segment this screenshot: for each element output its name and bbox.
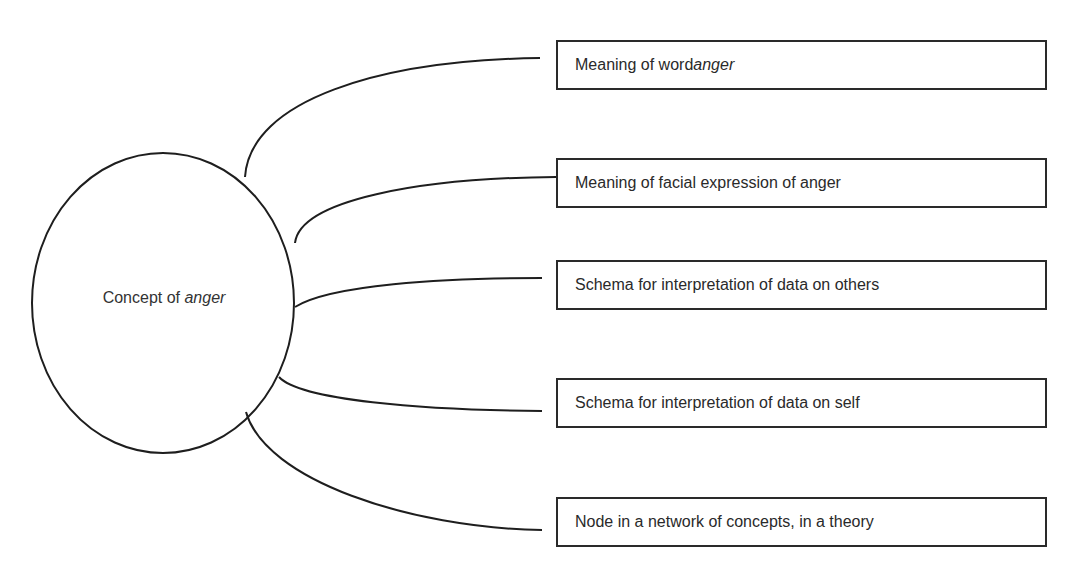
connector-5 (246, 412, 542, 530)
center-label-emphasis: anger (184, 289, 225, 306)
connector-2 (295, 177, 556, 243)
node-box-network-node: Node in a network of concepts, in a theo… (556, 497, 1047, 547)
node-box-facial-expression: Meaning of facial expression of anger (556, 158, 1047, 208)
connector-4 (279, 377, 542, 411)
connector-1 (245, 58, 540, 177)
node-label: Schema for interpretation of data on oth… (575, 276, 879, 294)
node-label: Node in a network of concepts, in a theo… (575, 513, 874, 531)
node-box-schema-self: Schema for interpretation of data on sel… (556, 378, 1047, 428)
connector-3 (295, 278, 542, 307)
node-box-schema-others: Schema for interpretation of data on oth… (556, 260, 1047, 310)
node-label: Meaning of word (575, 56, 693, 74)
node-label: Schema for interpretation of data on sel… (575, 394, 860, 412)
center-label-text: Concept of (103, 289, 185, 306)
node-label: Meaning of facial expression of anger (575, 174, 841, 192)
center-concept-label: Concept of anger (33, 289, 295, 307)
node-box-word-meaning: Meaning of word anger (556, 40, 1047, 90)
node-label-emphasis: anger (693, 56, 734, 74)
